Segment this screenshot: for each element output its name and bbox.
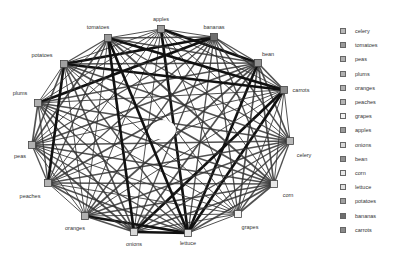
node-label-tomatoes: tomatoes [87, 24, 110, 30]
legend-swatch [340, 71, 346, 77]
legend-label: grapes [355, 113, 372, 119]
node-lettuce[interactable] [185, 230, 192, 237]
legend-swatch [340, 170, 346, 176]
node-label-plums: plums [13, 90, 28, 96]
node-label-oranges: oranges [65, 225, 85, 231]
legend-item-apples: apples [340, 123, 395, 137]
legend-item-peas: peas [340, 52, 395, 66]
legend-swatch [340, 56, 346, 62]
edge-bean-potatoes [64, 63, 258, 64]
node-potatoes[interactable] [61, 61, 68, 68]
node-label-bean: bean [262, 51, 274, 57]
node-label-potatoes: potatoes [31, 52, 52, 58]
legend-item-oranges: oranges [340, 81, 395, 95]
legend-label: apples [355, 127, 371, 133]
node-corn[interactable] [271, 181, 278, 188]
legend-label: lettuce [355, 184, 371, 190]
node-grapes[interactable] [235, 211, 242, 218]
legend-label: corn [355, 170, 366, 176]
legend-label: oranges [355, 85, 375, 91]
network-graph: applesbananasbeancarrotscelerycorngrapes… [0, 0, 320, 256]
node-label-lettuce: lettuce [180, 240, 196, 246]
edge-bananas-tomatoes [108, 37, 214, 38]
legend-swatch [340, 184, 346, 190]
node-oranges[interactable] [82, 213, 89, 220]
legend-label: carrots [355, 227, 372, 233]
legend-item-celery: celery [340, 24, 395, 38]
legend-label: onions [355, 142, 371, 148]
legend-swatch [340, 113, 346, 119]
node-plums[interactable] [35, 100, 42, 107]
edge-corn-peaches [48, 183, 274, 184]
legend-item-bananas: bananas [340, 208, 395, 222]
node-tomatoes[interactable] [105, 35, 112, 42]
legend-item-onions: onions [340, 138, 395, 152]
legend-swatch [340, 156, 346, 162]
legend-label: bean [355, 156, 367, 162]
node-apples[interactable] [158, 26, 165, 33]
legend-label: peaches [355, 99, 376, 105]
legend-label: celery [355, 28, 370, 34]
graph-canvas [0, 0, 320, 256]
legend-item-grapes: grapes [340, 109, 395, 123]
node-bean[interactable] [255, 60, 262, 67]
legend-item-carrots: carrots [340, 223, 395, 237]
legend-label: peas [355, 56, 367, 62]
center-gap [150, 120, 176, 140]
node-label-apples: apples [153, 16, 169, 22]
legend-swatch [340, 42, 346, 48]
node-carrots[interactable] [281, 87, 288, 94]
legend-swatch [340, 227, 346, 233]
node-celery[interactable] [287, 138, 294, 145]
legend-swatch [340, 213, 346, 219]
legend-item-tomatoes: tomatoes [340, 38, 395, 52]
legend-item-plums: plums [340, 67, 395, 81]
legend-swatch [340, 127, 346, 133]
node-label-carrots: carrots [293, 87, 310, 93]
legend-item-lettuce: lettuce [340, 180, 395, 194]
legend-item-bean: bean [340, 152, 395, 166]
node-label-grapes: grapes [242, 224, 259, 230]
legend-swatch [340, 198, 346, 204]
node-label-bananas: bananas [203, 24, 224, 30]
legend-label: plums [355, 71, 370, 77]
node-label-corn: corn [283, 192, 294, 198]
node-label-peas: peas [14, 153, 26, 159]
legend-swatch [340, 28, 346, 34]
legend-item-corn: corn [340, 166, 395, 180]
node-onions[interactable] [131, 229, 138, 236]
legend-swatch [340, 142, 346, 148]
legend-item-peaches: peaches [340, 95, 395, 109]
legend: celerytomatoespeasplumsorangespeachesgra… [340, 24, 395, 237]
node-label-peaches: peaches [20, 193, 41, 199]
node-peaches[interactable] [45, 180, 52, 187]
legend-label: tomatoes [355, 42, 378, 48]
legend-label: bananas [355, 213, 376, 219]
node-peas[interactable] [29, 142, 36, 149]
node-label-onions: onions [126, 241, 142, 247]
node-bananas[interactable] [211, 34, 218, 41]
legend-swatch [340, 85, 346, 91]
node-label-celery: celery [297, 152, 312, 158]
legend-swatch [340, 99, 346, 105]
legend-label: potatoes [355, 198, 376, 204]
legend-item-potatoes: potatoes [340, 194, 395, 208]
